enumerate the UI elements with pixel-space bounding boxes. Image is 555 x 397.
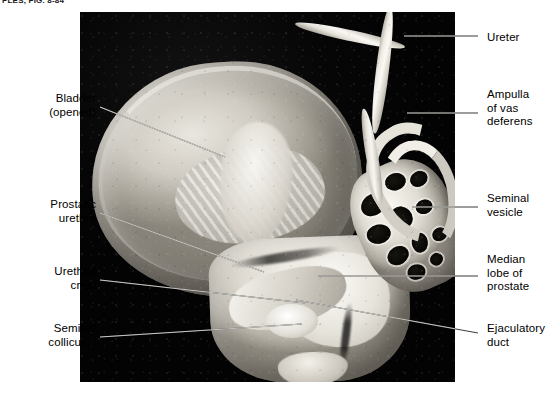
label-median-lobe: Median lobe of prostate [487,253,553,294]
label-ureter: Ureter [487,31,551,45]
seminal-colliculus [266,304,318,338]
running-head-caption: PLES, FIG. 8-84 [2,0,64,5]
label-urethral-crest: Urethral crest [12,265,96,292]
label-seminal-vesicle: Seminal vesicle [487,192,551,219]
specimen-photograph-plate [80,12,455,382]
label-ampulla-vas: Ampulla of vas deferens [487,88,553,129]
label-prostatic-urethra: Prostatic urethra [12,198,96,225]
label-seminal-colliculus: Seminal colliculus [8,322,96,349]
photo-background [80,12,455,382]
label-ejaculatory-duct: Ejaculatory duct [487,322,555,349]
seminal-vesicle-loculus [406,263,427,282]
ureter [368,12,397,134]
label-bladder: Bladder (opened) [18,92,96,119]
